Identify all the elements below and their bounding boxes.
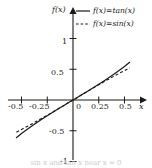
- legend-label-tan: f(x)=tan(x): [93, 7, 135, 15]
- x-tick-label-neg-0-5: -0.5: [8, 103, 23, 111]
- x-tick-label-0: 0: [76, 103, 81, 111]
- figure-caption: sin x and tan x near x = 0: [0, 159, 152, 168]
- y-axis-label: f(x): [52, 6, 66, 14]
- y-axis-arrowhead: [69, 7, 76, 14]
- y-tick-label-1: 1: [62, 38, 67, 46]
- legend-label-sin: f(x)=sin(x): [93, 20, 134, 28]
- legend-swatches: [76, 11, 90, 24]
- y-axis: [69, 7, 76, 160]
- figure-tan-sin-plot: f(x) x -0.5 -0.25 0 0.25 0.5 1 0.5 -0.5 …: [0, 0, 152, 168]
- x-axis-label: x: [139, 103, 144, 111]
- x-tick-label-0-25: 0.25: [91, 103, 109, 111]
- y-tick-label-0-5: 0.5: [51, 69, 64, 77]
- x-tick-label-neg-0-25: -0.25: [29, 103, 50, 111]
- x-tick-label-0-5: 0.5: [119, 103, 132, 111]
- y-tick-label-neg-0-5: -0.5: [49, 128, 64, 136]
